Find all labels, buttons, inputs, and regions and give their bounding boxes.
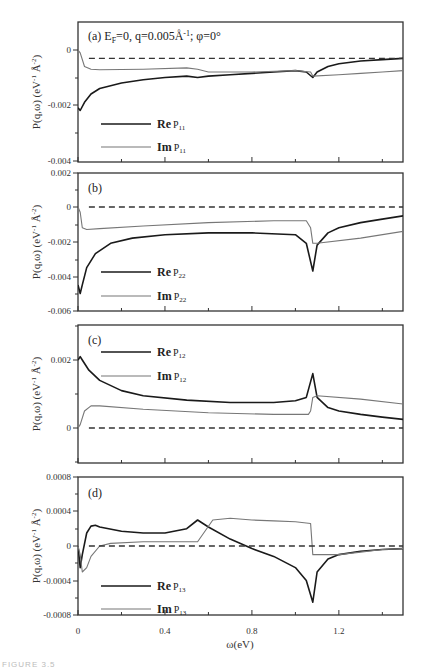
y-tick-label: -0.006 — [48, 306, 72, 316]
series-im-p22 — [78, 207, 404, 243]
y-tick-label: 0.002 — [51, 168, 71, 178]
y-axis-label: P(q,ω) (eV-1 Å-2) — [30, 55, 43, 130]
x-tick-label: 0.4 — [159, 626, 171, 636]
plot-frame — [78, 325, 403, 463]
y-tick-label: 0 — [67, 423, 72, 433]
y-axis-label: P(q,ω) (eV-1 Å-2) — [30, 509, 43, 584]
y-axis-label: P(q,ω) (eV-1 Å-2) — [30, 205, 43, 280]
y-tick-label: 0.0004 — [46, 506, 71, 516]
series-im-p11 — [78, 50, 404, 76]
x-tick-label: 0.8 — [246, 626, 258, 636]
figure-caption: FIGURE 3.5 — [2, 660, 56, 669]
panel-a: 0-0.002-0.004P(q,ω) (eV-1 Å-2)(a) EF=0, … — [30, 22, 404, 166]
panel-label: (d) — [88, 486, 102, 500]
legend-label: ReP22 — [157, 265, 186, 280]
legend-label: ReP12 — [157, 345, 186, 360]
plot-frame — [78, 22, 403, 162]
series-im-p12 — [78, 396, 404, 428]
panel-d: 00.00080.0004-0.0004-0.0008P(q,ω) (eV-1 … — [30, 472, 404, 620]
y-tick-label: -0.004 — [48, 272, 72, 282]
legend-label: ImP11 — [157, 140, 186, 155]
panel-b: 00.002-0.002-0.004-0.006P(q,ω) (eV-1 Å-2… — [30, 168, 404, 316]
panel-label: (a) EF=0, q=0.005Å-1; φ=0° — [88, 29, 221, 45]
y-tick-label: 0.0008 — [46, 472, 71, 482]
legend-label: ReP11 — [157, 117, 186, 132]
x-axis-label: ω(eV) — [226, 638, 254, 651]
y-tick-label: -0.002 — [48, 100, 71, 110]
legend-label: ImP12 — [157, 369, 187, 384]
legend-label: ImP22 — [157, 289, 187, 304]
y-tick-label: -0.0004 — [43, 576, 71, 586]
panel-c: 00.002P(q,ω) (eV-1 Å-2)(c)ReP12ImP12 — [30, 325, 404, 463]
y-tick-label: 0 — [67, 202, 72, 212]
series-re-p12 — [78, 357, 404, 420]
legend-label: ReP13 — [157, 579, 186, 594]
panel-label: (c) — [88, 333, 101, 347]
series-re-p11 — [78, 58, 404, 110]
x-tick-label: 0 — [76, 626, 81, 636]
panel-label: (b) — [88, 181, 102, 195]
y-tick-label: 0 — [67, 45, 72, 55]
y-tick-label: 0.002 — [51, 355, 71, 365]
x-tick-label: 1.2 — [333, 626, 344, 636]
series-re-p13 — [78, 520, 404, 602]
series-im-p13 — [78, 518, 404, 572]
y-tick-label: -0.0008 — [43, 610, 71, 620]
y-tick-label: -0.004 — [48, 156, 72, 166]
figure-canvas: 0-0.002-0.004P(q,ω) (eV-1 Å-2)(a) EF=0, … — [0, 0, 424, 671]
y-tick-label: 0 — [67, 541, 72, 551]
y-tick-label: -0.002 — [48, 237, 71, 247]
plot-frame — [78, 173, 403, 311]
y-axis-label: P(q,ω) (eV-1 Å-2) — [30, 357, 43, 432]
